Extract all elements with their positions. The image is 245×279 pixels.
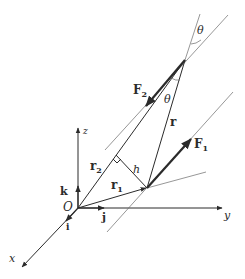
r1-label: r1 bbox=[111, 178, 123, 194]
z-axis-label: z bbox=[82, 126, 88, 136]
y-axis-label: y bbox=[223, 209, 231, 222]
coordinate-axes bbox=[22, 128, 222, 267]
r-vector bbox=[147, 60, 185, 188]
lines-of-action bbox=[105, 14, 233, 232]
unit-j-label: j bbox=[101, 211, 106, 224]
f1-force-arrow bbox=[147, 139, 191, 188]
r1-extension-line bbox=[147, 172, 206, 188]
f1-label: F1 bbox=[194, 137, 208, 153]
right-angle-mark bbox=[113, 159, 121, 163]
x-axis-label: x bbox=[9, 252, 16, 265]
r2-vector bbox=[78, 60, 185, 208]
r-extension-line bbox=[185, 14, 200, 60]
r2-label: r2 bbox=[90, 159, 102, 175]
position-vectors bbox=[78, 60, 185, 208]
theta-top-arc bbox=[191, 40, 201, 44]
theta-mid-label: θ bbox=[164, 93, 171, 106]
unit-i-label: i bbox=[66, 222, 70, 232]
couple-diagram: θ θ F2 F1 r r2 r1 h z y x O k j i bbox=[0, 0, 245, 279]
labels: θ θ F2 F1 r r2 r1 h z y x O k j i bbox=[9, 24, 231, 265]
theta-top-label: θ bbox=[197, 24, 204, 37]
unit-k-label: k bbox=[60, 185, 68, 198]
origin-label: O bbox=[63, 200, 73, 214]
h-label: h bbox=[133, 163, 140, 176]
r-label: r bbox=[170, 115, 177, 129]
angle-arcs bbox=[171, 40, 201, 80]
f2-label: F2 bbox=[133, 83, 147, 99]
